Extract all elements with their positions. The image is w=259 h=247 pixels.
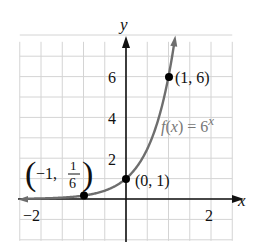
point-label-0-1: (0, 1)	[135, 172, 170, 190]
x-axis-label: x	[237, 191, 246, 210]
y-tick-2: 2	[108, 151, 116, 168]
point-0-1	[122, 175, 130, 183]
fraction-numerator: 1	[70, 158, 77, 173]
y-tick-6: 6	[108, 69, 116, 86]
y-axis-arrow-icon	[122, 36, 130, 48]
point-1-6	[165, 73, 173, 81]
paren-open: (	[25, 155, 36, 193]
x-tick-neg2: −2	[23, 207, 40, 224]
x-tick-2: 2	[205, 207, 213, 224]
fraction-denominator: 6	[69, 176, 76, 191]
y-axis-label: y	[118, 15, 128, 34]
point-label-neg1-sixth: ( −1, 1 6 )	[25, 155, 93, 193]
paren-close: )	[82, 155, 93, 193]
y-tick-4: 4	[108, 110, 116, 127]
point-label-x: −1,	[36, 165, 57, 182]
curve-top-arrow-icon	[170, 35, 177, 46]
point-label-1-6: (1, 6)	[175, 69, 210, 87]
exponential-graph: y x −2 2 2 4 6 (1, 6) (0, 1) ( −1, 1 6 )…	[0, 0, 259, 247]
point-neg1-sixth	[80, 192, 88, 200]
